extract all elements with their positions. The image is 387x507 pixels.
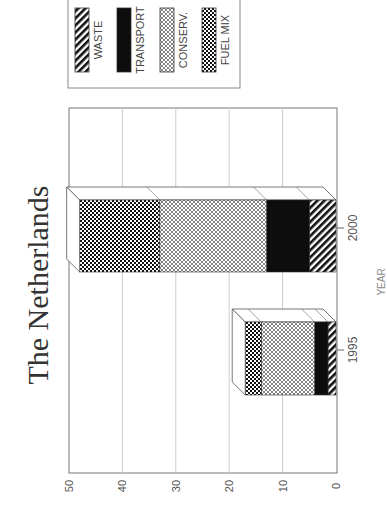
- value-tick-label: 20: [223, 480, 235, 492]
- bar-1995: [232, 309, 336, 395]
- bar-2000: [67, 187, 336, 272]
- legend-label: CONSERV.: [177, 12, 189, 68]
- bar-segment-conserv: [160, 200, 267, 272]
- value-axis: 01020304050: [63, 480, 342, 492]
- legend-swatch: [75, 8, 89, 72]
- bar-segment-fuel-mix: [245, 322, 261, 395]
- legend-swatch: [117, 8, 131, 72]
- category-axis: 19952000: [337, 214, 360, 363]
- category-label: 1995: [346, 336, 360, 363]
- bar-segment-waste: [309, 200, 336, 272]
- value-tick-label: 50: [63, 480, 75, 492]
- value-tick-label: 40: [116, 480, 128, 492]
- legend-label: WASTE: [92, 21, 104, 60]
- bar-segment-transport: [267, 200, 310, 272]
- bar-segment-fuel-mix: [80, 200, 160, 272]
- bar-segment-waste: [328, 322, 336, 395]
- x-axis-title: YEAR: [376, 268, 387, 295]
- bar-segment-conserv: [261, 322, 314, 395]
- legend-label: FUEL MIX: [219, 14, 231, 65]
- chart-title: The Netherlands: [21, 185, 54, 384]
- value-tick-label: 0: [330, 483, 342, 489]
- value-tick-label: 30: [170, 480, 182, 492]
- bar-segment-transport: [315, 322, 328, 395]
- value-tick-label: 10: [277, 480, 289, 492]
- category-label: 2000: [346, 214, 360, 241]
- legend-swatch: [160, 8, 174, 72]
- legend-swatch: [202, 8, 216, 72]
- plot-area: 19952000 01020304050: [63, 108, 360, 492]
- legend: WASTETRANSPORTCONSERV.FUEL MIX: [68, 0, 240, 88]
- legend-label: TRANSPORT: [134, 6, 146, 74]
- stacked-bar-chart: The Netherlands WASTETRANSPORTCONSERV.FU…: [0, 0, 387, 507]
